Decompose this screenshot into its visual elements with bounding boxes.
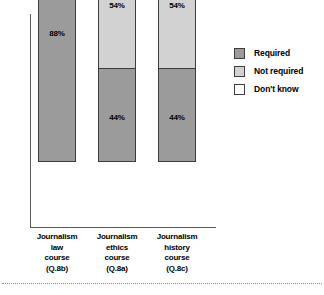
bar-3[interactable]: 54% 44% — [158, 0, 196, 162]
footer-divider — [2, 283, 322, 285]
bar-2-not-required-value-label: 54% — [99, 1, 135, 10]
legend-label-required: Required — [254, 48, 290, 58]
bar-2[interactable]: 54% 44% — [98, 0, 136, 162]
plot-area: 1% 11% 88% 2% 54% 44% — [0, 0, 230, 230]
legend-item-required[interactable]: Required — [234, 44, 322, 62]
legend-item-dont-know[interactable]: Don't know — [234, 80, 322, 98]
x-axis-line — [30, 227, 216, 228]
legend-label-dont-know: Don't know — [254, 84, 298, 94]
bar-3-segment-not-required[interactable]: 54% — [158, 0, 196, 68]
bar-1[interactable]: 11% 88% — [38, 0, 76, 162]
square-swatch-light-gray-icon — [234, 66, 245, 77]
x-tick-label-3-line-4: (Q.8c) — [142, 264, 212, 275]
bar-3-segment-required[interactable]: 44% — [158, 68, 196, 162]
legend-item-not-required[interactable]: Not required — [234, 62, 322, 80]
x-tick-label-3-line-3: course — [142, 253, 212, 264]
x-tick-label-3-line-2: history — [142, 243, 212, 254]
x-tick-label-journalism-history: Journalism history course (Q.8c) — [142, 232, 212, 274]
bar-2-segment-not-required[interactable]: 54% — [98, 0, 136, 68]
bar-3-not-required-value-label: 54% — [159, 1, 195, 10]
square-swatch-dark-gray-icon — [234, 48, 245, 59]
legend: Required Not required Don't know — [234, 44, 322, 98]
legend-label-not-required: Not required — [254, 66, 303, 76]
bar-2-required-value-label: 44% — [99, 113, 135, 122]
stacked-bar-chart: 1% 11% 88% 2% 54% 44% — [0, 0, 324, 295]
bar-1-required-value-label: 88% — [39, 29, 75, 38]
square-swatch-white-icon — [234, 84, 245, 95]
x-tick-label-3-line-1: Journalism — [142, 232, 212, 243]
bar-2-segment-required[interactable]: 44% — [98, 68, 136, 162]
bar-1-segment-required[interactable]: 88% — [38, 0, 76, 162]
y-axis-line — [30, 14, 31, 228]
bar-3-required-value-label: 44% — [159, 113, 195, 122]
